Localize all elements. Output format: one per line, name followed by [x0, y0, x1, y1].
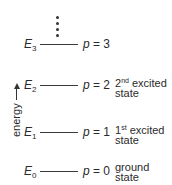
energy-level-line [40, 171, 78, 172]
energy-level-line [40, 85, 78, 86]
energy-level-line [40, 44, 78, 45]
quantum-number-label: p = 2 [83, 79, 110, 91]
dot [56, 34, 59, 37]
state-description: 1st excited state [115, 123, 165, 145]
state-description: ground state [115, 162, 149, 182]
dot [56, 16, 59, 19]
level-symbol: E2 [24, 79, 36, 96]
dot [56, 28, 59, 31]
quantum-number-label: p = 1 [83, 126, 110, 138]
quantum-number-label: p = 0 [83, 165, 110, 177]
arrow-up-icon [14, 83, 20, 89]
dot [56, 22, 59, 25]
level-symbol: E1 [24, 126, 36, 143]
state-description: 2nd excited state [115, 76, 167, 98]
axis-label: energy [10, 103, 22, 137]
quantum-number-label: p = 3 [83, 38, 110, 50]
energy-level-line [40, 132, 78, 133]
axis-line [16, 88, 17, 100]
level-symbol: E3 [24, 38, 36, 55]
level-symbol: E0 [24, 165, 36, 182]
